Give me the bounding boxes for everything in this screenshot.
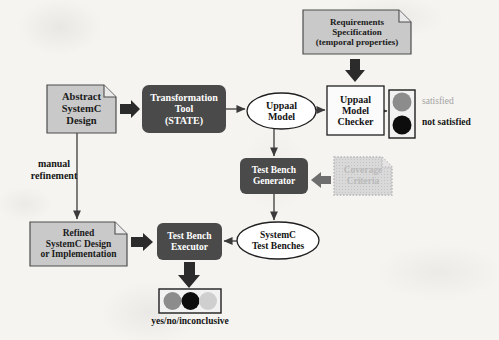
satisfied-label: satisfied: [422, 96, 492, 107]
uppaal-model-checker-shape: [327, 86, 384, 135]
uppaal-model-shape: [247, 93, 316, 129]
refined-systemc-design-shape: [30, 222, 127, 266]
not-satisfied-light: [393, 116, 412, 135]
manual-refinement-label: manual refinement: [18, 158, 90, 181]
executor-result-indicator: [159, 289, 221, 313]
yes-light: [164, 292, 182, 310]
edge-requirements-to-checker: [345, 59, 365, 82]
requirements-specification-shape: [303, 10, 411, 54]
edge-coverage-criteria-to-generator: [311, 172, 331, 188]
edge-refined-design-to-executor: [131, 233, 153, 251]
edge-executor-to-result-indicator: [178, 262, 200, 288]
abstract-systemc-design-shape: [47, 85, 116, 133]
transformation-tool-shape: [142, 85, 226, 133]
satisfied-light: [393, 93, 412, 112]
test-bench-generator-shape: [240, 158, 308, 194]
inconclusive-light: [199, 292, 217, 310]
test-bench-executor-shape: [157, 223, 222, 260]
edge-design-to-transformation-tool: [120, 100, 140, 118]
systemc-test-benches-shape: [237, 222, 319, 259]
diagram-canvas: Abstract SystemC Design Transformation T…: [0, 0, 499, 340]
model-checker-result-indicator: [389, 90, 415, 138]
yes-no-inconclusive-label: yes/no/inconclusive: [130, 316, 250, 327]
not-satisfied-label: not satisfied: [422, 117, 496, 128]
coverage-criteria-shape: [334, 157, 392, 195]
no-light: [182, 292, 200, 310]
